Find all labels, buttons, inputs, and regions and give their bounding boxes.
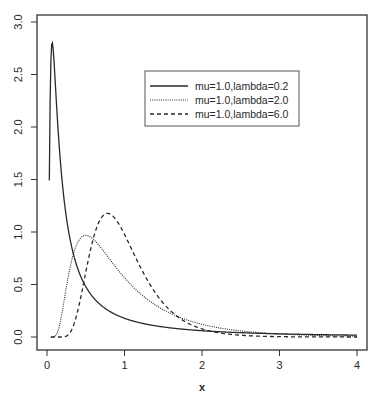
legend: mu=1.0,lambda=0.2 mu=1.0,lambda=2.0 mu=1… (145, 71, 299, 126)
legend-label-2: mu=1.0,lambda=2.0 (195, 94, 289, 106)
y-tick-label: 1.5 (12, 172, 24, 187)
y-axis: 0.00.51.01.52.02.53.0 (12, 14, 37, 344)
plot-frame (37, 15, 367, 350)
legend-label-1: mu=1.0,lambda=0.2 (195, 80, 289, 92)
x-tick-label: 0 (44, 359, 50, 371)
curve-dotted (51, 235, 357, 337)
x-axis-title: x (199, 381, 206, 393)
curve-dashed (51, 213, 357, 337)
x-tick-label: 1 (121, 359, 127, 371)
y-tick-label: 2.5 (12, 67, 24, 82)
x-tick-label: 3 (276, 359, 282, 371)
y-tick-label: 0.0 (12, 329, 24, 344)
chart-canvas: 0.00.51.01.52.02.53.0 01234 mu=1.0,lambd… (0, 0, 378, 406)
y-tick-label: 1.0 (12, 224, 24, 239)
y-tick-label: 2.0 (12, 119, 24, 134)
legend-label-3: mu=1.0,lambda=6.0 (195, 108, 289, 120)
x-tick-label: 4 (354, 359, 360, 371)
y-tick-label: 3.0 (12, 14, 24, 29)
x-tick-label: 2 (199, 359, 205, 371)
x-axis: 01234 (44, 350, 360, 371)
y-tick-label: 0.5 (12, 277, 24, 292)
